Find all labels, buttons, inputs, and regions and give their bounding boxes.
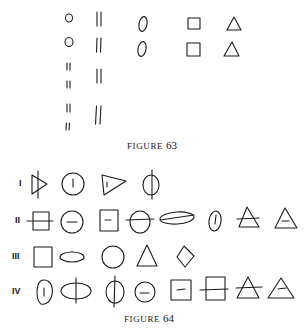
row-label-iii: III	[12, 251, 20, 261]
oval-with-vertical-dash-icon	[37, 280, 52, 304]
circle-icon	[65, 38, 73, 47]
double-bar-icon	[66, 123, 70, 130]
square-icon	[187, 43, 200, 56]
figure-drawings	[0, 0, 307, 329]
caption-number: 63	[166, 139, 177, 151]
oval-with-vertical-line-icon	[106, 276, 124, 307]
double-bar-icon	[67, 63, 70, 70]
triangle-icon	[137, 245, 157, 266]
figure-63-shapes	[65, 12, 241, 130]
square-icon	[34, 247, 52, 267]
circle-with-vertical-dash-icon	[62, 173, 84, 195]
double-bar-icon	[97, 12, 101, 26]
double-bar-icon	[97, 69, 101, 83]
triangle-with-horizontal-line-icon	[237, 207, 259, 227]
circle-icon	[66, 14, 73, 22]
figure-64-row-ii	[27, 207, 297, 233]
oval-with-vertical-dash-icon	[208, 210, 223, 231]
row-label-iv: IV	[12, 286, 21, 296]
figure-64-row-iii	[34, 245, 194, 268]
double-bar-icon	[67, 81, 70, 88]
triangle-with-vertical-line-icon	[32, 171, 47, 198]
figure-64-row-iv	[37, 276, 294, 307]
triangle-with-horizontal-line-icon	[236, 277, 262, 298]
circle-with-horizontal-line-icon	[126, 211, 154, 233]
square-icon	[188, 18, 200, 29]
figure-64-row-i	[32, 170, 159, 199]
circle-with-horizontal-dash-icon	[135, 282, 155, 302]
square-with-horizontal-dash-icon	[100, 210, 118, 231]
oval-icon	[138, 16, 148, 32]
ellipse-with-vertical-line-icon	[61, 278, 91, 303]
figure-63-caption: FIGURE 63	[127, 139, 177, 151]
triangle-with-vertical-dash-icon	[102, 175, 126, 195]
caption-word: FIGURE	[124, 314, 160, 324]
circle-icon	[102, 246, 124, 268]
ellipse-with-horizontal-line-icon	[160, 211, 195, 225]
caption-number: 64	[163, 312, 174, 324]
triangle-icon	[227, 17, 241, 30]
double-bar-icon	[96, 106, 102, 124]
triangle-icon	[224, 42, 239, 56]
double-bar-icon	[97, 38, 102, 52]
row-label-ii: II	[15, 215, 20, 225]
diamond-icon	[177, 246, 194, 267]
row-label-i: I	[19, 178, 22, 188]
caption-word: FIGURE	[127, 141, 163, 151]
double-bar-icon	[67, 104, 70, 112]
oval-with-vertical-line-icon	[143, 170, 159, 199]
triangle-with-horizontal-dash-icon	[275, 208, 297, 228]
ellipse-icon	[60, 252, 84, 262]
oval-icon	[137, 41, 147, 57]
square-with-horizontal-dash-icon	[171, 280, 191, 300]
square-with-horizontal-line-icon	[200, 277, 228, 300]
figure-64-caption: FIGURE 64	[124, 312, 174, 324]
square-with-horizontal-line-icon	[27, 212, 53, 230]
triangle-with-horizontal-dash-icon	[268, 278, 294, 298]
circle-with-horizontal-dash-icon	[61, 211, 83, 233]
